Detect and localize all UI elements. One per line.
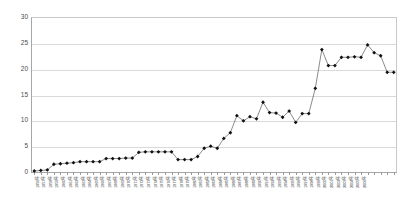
data-point	[183, 158, 187, 162]
data-point	[359, 55, 363, 59]
data-point	[157, 150, 161, 154]
data-point	[209, 144, 213, 148]
data-point	[392, 70, 396, 74]
data-point	[117, 157, 121, 161]
data-point	[104, 157, 108, 161]
data-point	[268, 111, 272, 115]
data-point	[111, 157, 115, 161]
data-point	[189, 158, 193, 162]
data-point	[385, 70, 389, 74]
data-point	[150, 150, 154, 154]
data-point	[313, 86, 317, 90]
data-point	[59, 162, 63, 166]
data-point	[91, 160, 95, 164]
data-point	[326, 64, 330, 68]
data-point	[163, 150, 167, 154]
data-point	[379, 54, 383, 58]
data-point	[98, 160, 102, 164]
data-point	[32, 169, 36, 173]
data-point	[274, 111, 278, 115]
data-point	[307, 112, 311, 116]
data-point	[65, 161, 69, 165]
data-point	[255, 117, 259, 121]
data-point	[39, 169, 43, 173]
data-point	[320, 48, 324, 52]
data-point	[124, 156, 128, 160]
data-point	[72, 161, 76, 165]
series-line	[34, 45, 393, 171]
data-point	[261, 100, 265, 104]
data-point	[346, 55, 350, 59]
data-point	[248, 115, 252, 119]
data-point	[85, 160, 89, 164]
data-point	[143, 150, 147, 154]
data-point	[353, 55, 357, 59]
data-series	[0, 0, 413, 221]
data-point	[78, 160, 82, 164]
data-point	[215, 146, 219, 150]
chart-container: 051015202530 1956年1957年1958年1959年1960年19…	[0, 0, 413, 221]
series-markers	[32, 43, 395, 173]
